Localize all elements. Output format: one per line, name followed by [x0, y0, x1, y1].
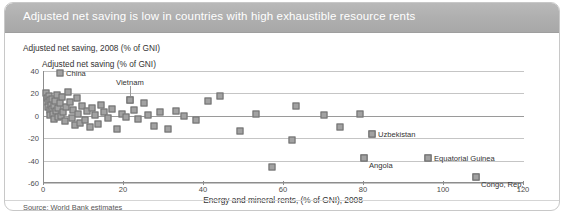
- data-point: [145, 111, 152, 118]
- point-label: Equatorial Guinea: [434, 154, 495, 163]
- data-point: [289, 137, 296, 144]
- y-tick-label: -40: [13, 156, 39, 165]
- data-point: [86, 124, 93, 131]
- data-point-highlighted: [425, 155, 432, 162]
- data-point: [253, 110, 260, 117]
- data-point: [92, 111, 99, 118]
- y-tick-label: 40: [13, 67, 39, 76]
- gridline: [44, 138, 524, 139]
- x-tick-label: 20: [119, 185, 127, 194]
- data-point: [181, 112, 188, 119]
- data-point: [269, 164, 276, 171]
- source-note: Source: World Bank estimates: [23, 203, 122, 211]
- data-point: [105, 115, 112, 122]
- data-point: [131, 107, 138, 114]
- gridline: [44, 71, 524, 72]
- footer-divider: [5, 200, 560, 201]
- data-point-highlighted: [361, 155, 368, 162]
- data-point: [113, 126, 120, 133]
- gridline: [44, 116, 524, 117]
- data-point-highlighted: [473, 174, 480, 181]
- data-point: [157, 109, 164, 116]
- gridline: [44, 93, 524, 94]
- data-point: [237, 128, 244, 135]
- x-tick-label: 60: [279, 185, 287, 194]
- y-axis-ticks: 40200-20-40-60: [11, 71, 39, 183]
- point-label: Angola: [369, 161, 393, 170]
- data-point: [357, 110, 364, 117]
- point-label: China: [66, 69, 86, 78]
- y-tick-label: 0: [13, 111, 39, 120]
- data-point: [321, 111, 328, 118]
- data-point: [141, 100, 148, 107]
- leader-line: [130, 86, 131, 96]
- data-point: [205, 98, 212, 105]
- data-point-highlighted: [369, 130, 376, 137]
- point-label: Uzbekistan: [378, 129, 416, 138]
- x-tick-label: 80: [359, 185, 367, 194]
- y-tick-label: -20: [13, 134, 39, 143]
- x-tick-label: 120: [517, 185, 530, 194]
- data-point-highlighted: [57, 70, 64, 77]
- gridline: [44, 183, 524, 184]
- chart-subtitle: Adjusted net saving, 2008 (% of GNI): [23, 43, 160, 53]
- chart-header-bar: Adjusted net saving is low in countries …: [5, 3, 560, 33]
- chart-card: Adjusted net saving is low in countries …: [4, 2, 560, 211]
- chart-title: Adjusted net saving is low in countries …: [23, 10, 415, 22]
- data-point: [65, 89, 72, 96]
- data-point-highlighted: [127, 97, 134, 104]
- y-tick-label: -60: [13, 179, 39, 188]
- data-point: [293, 102, 300, 109]
- data-point: [109, 106, 116, 113]
- x-tick-label: 0: [41, 185, 45, 194]
- data-point: [66, 99, 73, 106]
- y-tick-label: 20: [13, 89, 39, 98]
- data-point: [123, 113, 130, 120]
- y-axis-title: Adjusted net saving (% of GNI): [42, 59, 156, 69]
- plot-area: ChinaVietnamUzbekistanAngolaEquatorial G…: [43, 71, 523, 183]
- data-point: [217, 92, 224, 99]
- point-label: Vietnam: [116, 78, 144, 87]
- data-point: [165, 126, 172, 133]
- data-point: [173, 108, 180, 115]
- data-point: [73, 94, 80, 101]
- data-point: [193, 117, 200, 124]
- data-point: [135, 116, 142, 123]
- data-point: [337, 124, 344, 131]
- data-point: [97, 101, 104, 108]
- data-point: [151, 122, 158, 129]
- x-tick-label: 100: [437, 185, 450, 194]
- x-tick-label: 40: [199, 185, 207, 194]
- data-point: [95, 120, 102, 127]
